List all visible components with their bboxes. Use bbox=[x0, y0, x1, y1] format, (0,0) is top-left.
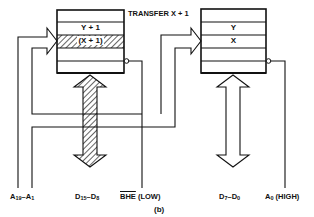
label-a19-a1: A19–A1 bbox=[10, 192, 34, 201]
bhe-line bbox=[129, 61, 142, 188]
left-row-x-plus-1: (X + 1) bbox=[57, 36, 124, 45]
left-row-y-plus-1: Y + 1 bbox=[57, 23, 124, 32]
bhe-bubble-icon bbox=[124, 59, 129, 64]
label-d15-d8: D15–D8 bbox=[75, 192, 99, 201]
figure-caption: (b) bbox=[154, 205, 164, 214]
low-data-bus-arrow-icon bbox=[217, 75, 249, 167]
high-data-bus-arrow-icon bbox=[74, 75, 106, 167]
label-a0-high: A0 (HIGH) bbox=[265, 192, 299, 201]
a0-bubble-icon bbox=[266, 59, 271, 64]
right-row-x: X bbox=[201, 36, 266, 45]
right-row-y: Y bbox=[201, 23, 266, 32]
label-d7-d0: D7–D0 bbox=[219, 192, 240, 201]
transfer-title: TRANSFER X + 1 bbox=[128, 9, 189, 18]
memory-transfer-diagram bbox=[0, 0, 314, 217]
a0-line bbox=[271, 61, 285, 188]
label-bhe-low: BHE (LOW) bbox=[120, 192, 160, 201]
